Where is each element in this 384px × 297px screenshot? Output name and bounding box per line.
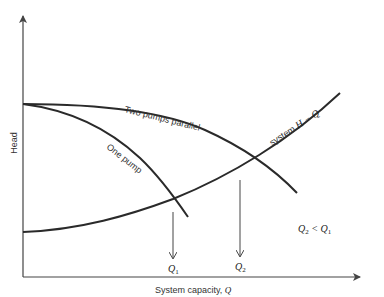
pump-curves-diagram: Head System capacity, Q Two pumps parall… [0, 0, 384, 297]
two-pumps-parallel-label: Two pumps parallel [124, 104, 202, 132]
q-relation-label: Q2 < Q1 [298, 223, 332, 236]
system-hq-label: system H − Q [267, 107, 322, 148]
one-pump-label: One pump [105, 142, 144, 176]
q2-label: Q2 [235, 261, 246, 274]
x-axis-label: System capacity, Q [155, 285, 232, 295]
system-hq-curve [23, 93, 340, 232]
q1-label: Q1 [168, 263, 179, 276]
y-axis-label: Head [9, 132, 19, 154]
